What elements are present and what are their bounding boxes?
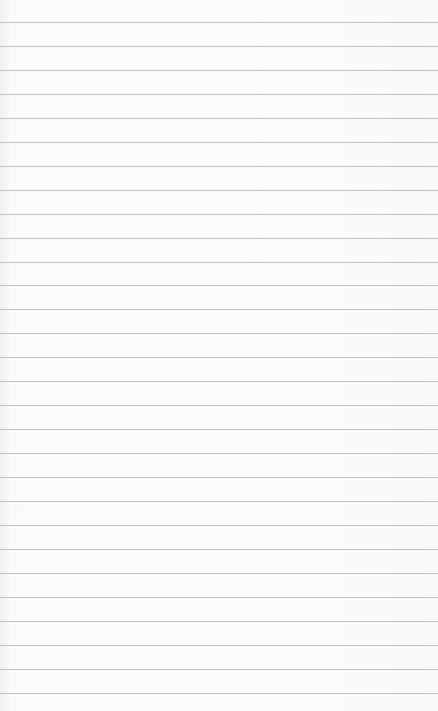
- ruled-line: [0, 333, 438, 334]
- ruled-line: [0, 238, 438, 239]
- ruled-line: [0, 118, 438, 119]
- ruled-line: [0, 262, 438, 263]
- ruled-line: [0, 70, 438, 71]
- ruled-line: [0, 381, 438, 382]
- ruled-line: [0, 525, 438, 526]
- ruled-line: [0, 669, 438, 670]
- ruled-line: [0, 477, 438, 478]
- lined-paper: [0, 0, 438, 711]
- ruled-line: [0, 94, 438, 95]
- ruled-line: [0, 46, 438, 47]
- ruled-line: [0, 214, 438, 215]
- ruled-line: [0, 549, 438, 550]
- ruled-line: [0, 190, 438, 191]
- ruled-line: [0, 405, 438, 406]
- ruled-line: [0, 597, 438, 598]
- ruled-line: [0, 22, 438, 23]
- ruled-line: [0, 142, 438, 143]
- ruled-line: [0, 621, 438, 622]
- ruled-line: [0, 573, 438, 574]
- ruled-line: [0, 429, 438, 430]
- ruled-line: [0, 453, 438, 454]
- ruled-line: [0, 645, 438, 646]
- ruled-line: [0, 285, 438, 286]
- ruled-line: [0, 309, 438, 310]
- ruled-line: [0, 693, 438, 694]
- ruled-line: [0, 357, 438, 358]
- ruled-line: [0, 501, 438, 502]
- ruled-line: [0, 166, 438, 167]
